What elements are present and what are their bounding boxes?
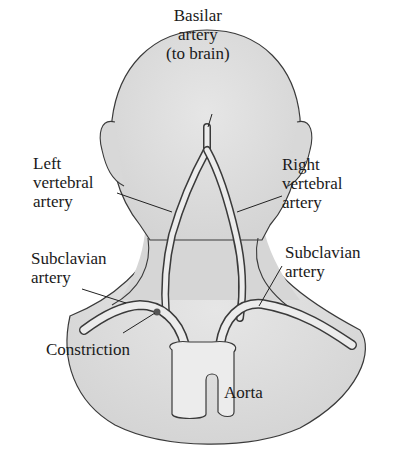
anatomy-illustration <box>0 0 411 459</box>
constriction-marker <box>154 309 161 316</box>
label-left-vertebral-artery: Left vertebral artery <box>33 154 93 211</box>
aorta-shape <box>170 342 236 419</box>
label-right-subclavian-artery: Subclavian artery <box>285 243 361 281</box>
label-basilar-artery: Basilar artery (to brain) <box>166 6 230 63</box>
label-right-vertebral-artery: Right vertebral artery <box>282 155 342 212</box>
label-aorta: Aorta <box>224 383 263 402</box>
label-constriction: Constriction <box>46 340 130 359</box>
label-left-subclavian-artery: Subclavian artery <box>31 249 107 287</box>
